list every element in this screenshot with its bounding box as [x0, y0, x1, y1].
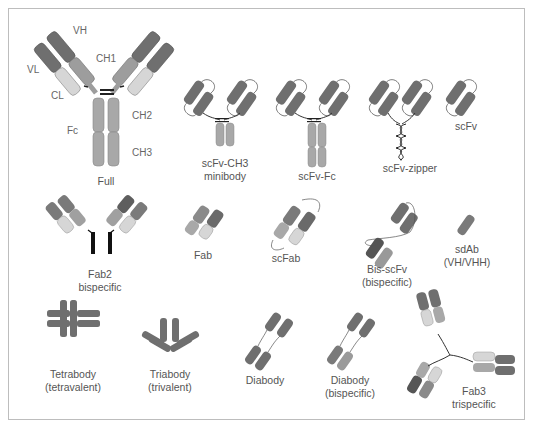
scfv-zipper-icon [363, 74, 439, 160]
domain-label-fc: Fc [67, 125, 78, 136]
label-scfv-ch3-minibody: scFv-CH3 minibody [185, 157, 265, 183]
label-full: Full [86, 175, 126, 188]
tetrabody-icon [47, 300, 100, 337]
label-fab2-bispecific: Fab2 bispecific [70, 268, 130, 294]
domain-label-vl: VL [27, 64, 39, 75]
fab-icon [183, 204, 224, 241]
domain-label-ch3: CH3 [132, 147, 152, 158]
diabody-icon [244, 311, 295, 372]
label-scfv-fc: scFv-Fc [282, 170, 352, 183]
triabody-icon [141, 318, 200, 353]
label-diabody-bispecific: Diabody (bispecific) [320, 374, 380, 400]
label-tetrabody: Tetrabody (tetravalent) [40, 368, 106, 394]
scfv-icon [440, 74, 483, 121]
scfab-icon [271, 199, 319, 250]
label-scfv: scFv [446, 120, 486, 133]
label-fab: Fab [185, 249, 221, 262]
label-triabody: Triabody (trivalent) [140, 368, 200, 394]
domain-label-cl: CL [51, 90, 64, 101]
antibody-formats-illustration [0, 0, 537, 429]
scfv-ch3-minibody-icon [178, 74, 264, 146]
fab2-bispecific-icon [44, 194, 149, 254]
sdab-icon [456, 213, 476, 236]
domain-label-ch2: CH2 [132, 110, 152, 121]
bis-scfv-icon [363, 201, 421, 270]
label-bis-scfv: Bis-scFv (bispecific) [355, 263, 419, 289]
domain-label-vh: VH [73, 25, 87, 36]
diabody-bispecific-icon [326, 311, 377, 372]
label-fab3-trispecific: Fab3 trispecific [446, 385, 502, 411]
scfv-fc-icon [270, 74, 356, 167]
label-scfab: scFab [266, 252, 306, 265]
fab3-trispecific-icon [406, 288, 515, 400]
domain-label-ch1: CH1 [96, 53, 116, 64]
label-diabody: Diabody [240, 374, 290, 387]
label-sdab: sdAb (VH/VHH) [440, 243, 494, 269]
label-scfv-zipper: scFv-zipper [370, 162, 450, 175]
